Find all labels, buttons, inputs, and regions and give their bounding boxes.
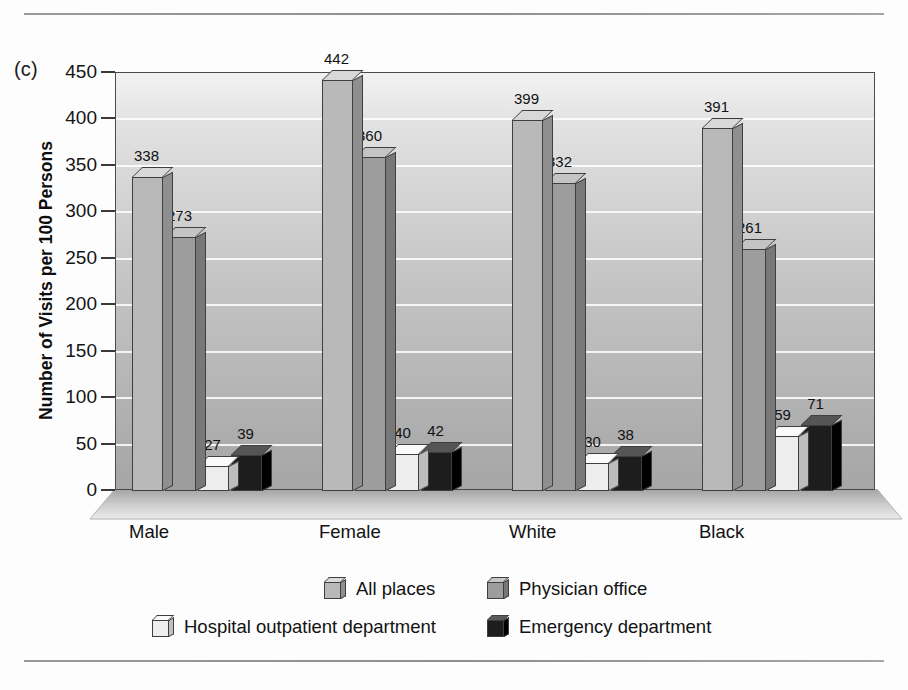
bar — [322, 80, 353, 491]
legend-item-all-places[interactable]: All places — [324, 578, 435, 600]
legend-swatch-hospital-outpatient-icon — [152, 617, 173, 637]
legend-label-hospital-outpatient-department: Hospital outpatient department — [184, 616, 436, 638]
bar — [132, 177, 163, 491]
legend-swatch-emergency-department-icon — [487, 617, 508, 637]
bar — [702, 128, 733, 491]
figure-panel: (c) Number of Visits per 100 Persons 450… — [0, 0, 908, 690]
legend-swatch-all-places-icon — [324, 579, 345, 599]
legend-label-emergency-department: Emergency department — [519, 616, 711, 638]
legend-swatch-physician-office-icon — [487, 579, 508, 599]
legend-label-physician-office: Physician office — [519, 578, 647, 600]
legend-item-hospital-outpatient-department[interactable]: Hospital outpatient department — [152, 616, 436, 638]
legend-item-emergency-department[interactable]: Emergency department — [487, 616, 711, 638]
bar — [512, 120, 543, 491]
legend-item-physician-office[interactable]: Physician office — [487, 578, 647, 600]
legend-label-all-places: All places — [356, 578, 435, 600]
